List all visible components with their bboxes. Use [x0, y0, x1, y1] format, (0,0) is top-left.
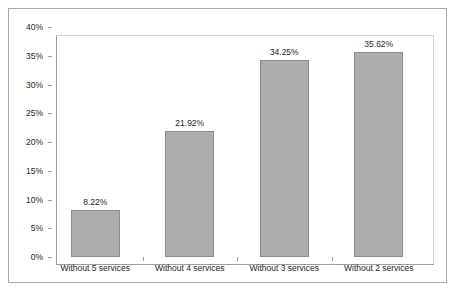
y-axis-tick-mark: [48, 85, 52, 86]
y-axis-tick-mark: [48, 200, 52, 201]
bar-value-label: 34.25%: [270, 48, 299, 57]
bar[interactable]: [260, 60, 309, 257]
y-axis-tick-mark: [48, 56, 52, 57]
y-axis-tick-mark: [48, 228, 52, 229]
bar[interactable]: [354, 52, 403, 257]
y-axis-tick-label: 35%: [9, 52, 43, 61]
bar[interactable]: [71, 210, 120, 257]
y-axis-tick-mark: [48, 171, 52, 172]
x-axis-tick-mark: [332, 257, 333, 261]
y-axis-tick-mark: [48, 142, 52, 143]
bar-value-label: 35.62%: [364, 40, 393, 49]
x-axis-category-label: Without 2 services: [344, 264, 413, 273]
y-axis-tick-mark: [48, 113, 52, 114]
x-axis-tick-mark: [237, 257, 238, 261]
y-axis-tick-label: 15%: [9, 167, 43, 176]
y-axis-tick-label: 10%: [9, 195, 43, 204]
bar-value-label: 8.22%: [83, 198, 107, 207]
x-axis-category-label: Without 3 services: [250, 264, 319, 273]
y-axis-tick-mark: [48, 257, 52, 258]
x-axis-tick-mark: [143, 257, 144, 261]
y-axis-tick-mark: [48, 27, 52, 28]
bar[interactable]: [165, 131, 214, 257]
chart-screenshot: 0%5%10%15%20%25%30%35%40% 8.22%Without 5…: [0, 0, 455, 292]
y-axis-tick-label: 5%: [9, 224, 43, 233]
x-axis-category-label: Without 4 services: [155, 264, 224, 273]
x-axis-category-label: Without 5 services: [61, 264, 130, 273]
y-axis-tick-label: 20%: [9, 138, 43, 147]
figure-frame: 0%5%10%15%20%25%30%35%40% 8.22%Without 5…: [8, 8, 447, 283]
y-axis-tick-label: 40%: [9, 23, 43, 32]
y-axis-tick-label: 0%: [9, 253, 43, 262]
y-axis-tick-label: 25%: [9, 109, 43, 118]
y-axis-tick-label: 30%: [9, 80, 43, 89]
bar-value-label: 21.92%: [175, 119, 204, 128]
